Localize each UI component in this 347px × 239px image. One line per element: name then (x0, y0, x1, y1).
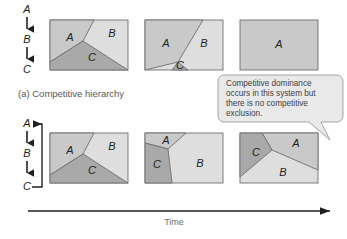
hierarchy-top-node-a: A (22, 3, 30, 15)
panel-top-2-label-c: C (176, 59, 184, 71)
hierarchy-top-node-c: C (23, 63, 31, 75)
callout-line-2: occurs in this system but (226, 89, 316, 98)
panel-top-1-label-a: A (65, 31, 73, 43)
panel-top-2-label-b: B (200, 37, 207, 49)
panel-bottom-1-label-b: B (108, 140, 115, 152)
panel-top-1-label-b: B (108, 27, 115, 39)
panel-bottom-3: A B C (240, 133, 318, 183)
hierarchy-bottom-loop-arrow (32, 124, 42, 187)
hierarchy-top-node-b: B (23, 33, 30, 45)
panel-top-3-label-a: A (274, 38, 282, 50)
time-axis-label: Time (164, 217, 184, 227)
hierarchy-bottom: A B C (22, 117, 42, 192)
panel-top-2: A B C (145, 20, 223, 71)
panel-top-3: A (240, 20, 318, 70)
callout-bubble: Competitive dominance occurs in this sys… (218, 75, 343, 140)
panel-top-1-label-c: C (88, 51, 96, 63)
panel-top-1: A B C (50, 20, 128, 70)
competition-figure: A B C A B C A B C A (a) Competitive hier… (0, 0, 347, 239)
callout-line-3: there is no competitive (226, 99, 308, 108)
panel-bottom-2-label-c: C (153, 158, 161, 170)
panel-bottom-2-label-b: B (196, 157, 203, 169)
panel-top-2-label-a: A (161, 37, 169, 49)
panel-bottom-3-label-a: A (291, 137, 299, 149)
hierarchy-bottom-node-b: B (23, 147, 30, 159)
panel-bottom-2: A B C (145, 133, 223, 183)
callout-line-1: Competitive dominance (226, 79, 312, 88)
hierarchy-top: A B C (22, 3, 31, 75)
hierarchy-bottom-node-a: A (22, 117, 30, 129)
panel-bottom-3-label-b: B (279, 166, 286, 178)
caption-competitive-hierarchy: (a) Competitive hierarchy (18, 88, 124, 99)
callout-line-4: exclusion. (226, 109, 262, 118)
panel-bottom-3-label-c: C (252, 146, 260, 158)
time-axis: Time (28, 211, 330, 227)
panel-bottom-1-label-c: C (88, 164, 96, 176)
panel-bottom-1: A B C (50, 133, 128, 183)
hierarchy-bottom-node-c: C (23, 180, 31, 192)
panel-bottom-2-label-a: A (161, 134, 169, 146)
panel-bottom-1-label-a: A (65, 144, 73, 156)
